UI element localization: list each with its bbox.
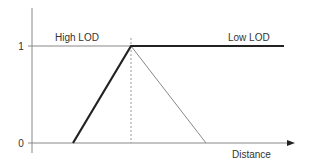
high-lod-fade-line <box>131 46 206 143</box>
y-tick-1: 1 <box>18 41 24 52</box>
low-lod-line <box>73 46 284 143</box>
x-axis-label: Distance <box>232 149 271 160</box>
lod-diagram: 1 0 High LOD Low LOD Distance <box>0 0 311 164</box>
high-lod-label: High LOD <box>55 32 99 43</box>
x-axis-arrow-icon <box>287 140 295 146</box>
y-tick-0: 0 <box>18 138 24 149</box>
low-lod-label: Low LOD <box>228 32 270 43</box>
